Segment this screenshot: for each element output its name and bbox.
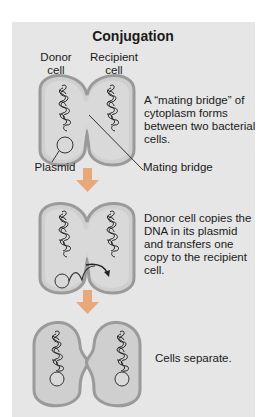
step1-cells (40, 76, 143, 170)
step2-cells (40, 203, 134, 293)
step3-cells (34, 322, 140, 405)
step1-description: A “mating bridge” of cytoplasm forms bet… (144, 94, 256, 146)
mating-bridge-label: Mating bridge (143, 161, 223, 174)
step3-description: Cells separate. (155, 352, 255, 365)
down-arrow-2 (76, 290, 99, 314)
step2-description: Donor cell copies the DNA in its plasmid… (144, 212, 252, 277)
plasmid-label: Plasmid (30, 161, 80, 174)
